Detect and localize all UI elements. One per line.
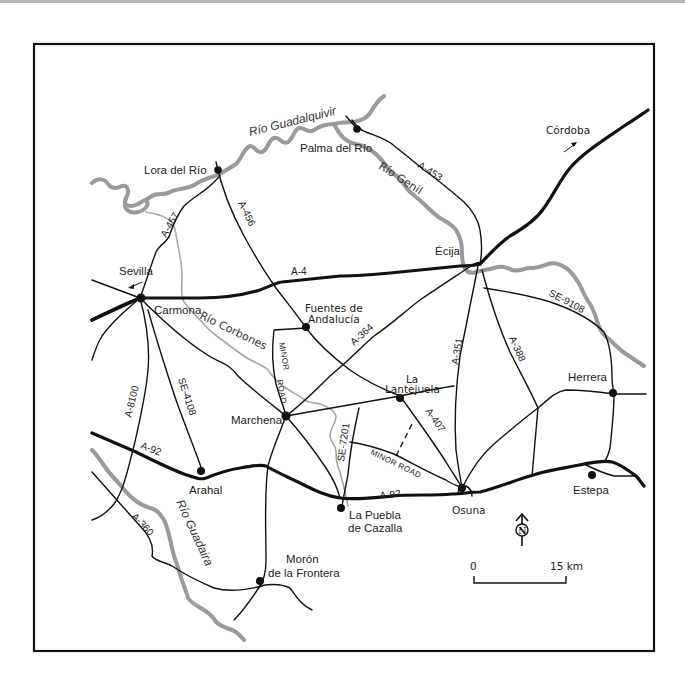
label-road-se7201: SE-7201 (335, 422, 351, 463)
label-cordoba: Córdoba (546, 124, 590, 136)
label-road-a351: A-351 (449, 337, 465, 366)
label-fuentes-line2: Andalucía (308, 313, 360, 325)
label-road-a457: A-457 (158, 210, 181, 239)
label-road-a4: A-4 (291, 266, 307, 277)
river-guadaira (92, 450, 244, 640)
label-road-a8100: A-8100 (122, 384, 141, 418)
label-arahal: Arahal (189, 484, 222, 496)
label-lantejuela-line2: Lantejuela (385, 383, 440, 395)
label-carmona: Carmona (154, 304, 202, 316)
town-marker-estepa (588, 471, 596, 479)
road-sevilla-west (92, 298, 140, 320)
road-a92 (92, 433, 644, 499)
road-herrera-south (604, 394, 614, 462)
scale-bar: 0 15 km (470, 560, 583, 583)
label-osuna: Osuna (452, 504, 485, 516)
sevilla-arrow-icon (128, 282, 142, 289)
north-arrow-icon: N (516, 514, 528, 546)
road-map: Lora del Río Palma del Río Córdoba Sevil… (0, 0, 685, 681)
river-corbones (146, 212, 348, 506)
town-marker-herrera (609, 389, 617, 397)
cordoba-arrow-icon (564, 142, 577, 152)
road-a351 (455, 266, 478, 488)
river-genil (334, 124, 644, 366)
label-sevilla: Sevilla (119, 265, 153, 277)
label-road-a456: A-456 (236, 199, 258, 228)
label-road-a453: A-453 (416, 159, 445, 183)
road-sevilla-nw (92, 280, 140, 298)
north-label: N (518, 526, 526, 536)
town-marker-lora (214, 166, 222, 174)
label-road-a92-east: A-92 (379, 488, 402, 501)
label-palma-del-rio: Palma del Río (300, 142, 372, 154)
label-rio-corbones: Río Corbones (198, 309, 270, 353)
label-ecija: Écija (435, 245, 461, 257)
label-moron-line2: de la Frontera (268, 567, 340, 579)
town-marker-moron (256, 577, 264, 585)
label-road-a388: A-388 (507, 334, 528, 363)
road-junction-south (532, 408, 538, 476)
road-moron-se (260, 585, 312, 610)
label-road-a360: A-360 (130, 511, 157, 538)
label-herrera: Herrera (568, 371, 608, 383)
town-marker-marchena (282, 412, 291, 421)
town-marker-arahal (197, 467, 205, 475)
label-road-a364: A-364 (348, 321, 376, 347)
label-estepa: Estepa (573, 484, 609, 496)
label-rio-guadaira: Río Guadaira (173, 497, 216, 568)
town-marker-puebla (337, 504, 345, 512)
road-dashed-connector (396, 424, 412, 456)
town-marker-osuna (458, 484, 466, 492)
label-minor-road-line2: ROAD (275, 379, 288, 405)
town-marker-palma (353, 125, 361, 133)
scale-start-label: 0 (470, 560, 477, 572)
town-marker-sevilla (137, 294, 146, 303)
label-puebla-line1: La Puebla (349, 509, 401, 521)
label-lora-del-rio: Lora del Río (144, 164, 207, 176)
label-road-a407: A-407 (423, 406, 448, 435)
road-a360 (92, 472, 262, 590)
label-moron-line1: Morón (286, 553, 319, 565)
label-puebla-line2: de Cazalla (348, 522, 403, 534)
town-marker-lantejuela (396, 394, 404, 402)
label-marchena: Marchena (231, 414, 283, 426)
road-moron-sw (234, 586, 260, 620)
road-marchena-moron (260, 416, 286, 586)
road-herrera-ew (538, 390, 646, 408)
label-minor-road-line1: MINOR (277, 342, 291, 371)
scale-end-label: 15 km (550, 560, 583, 572)
